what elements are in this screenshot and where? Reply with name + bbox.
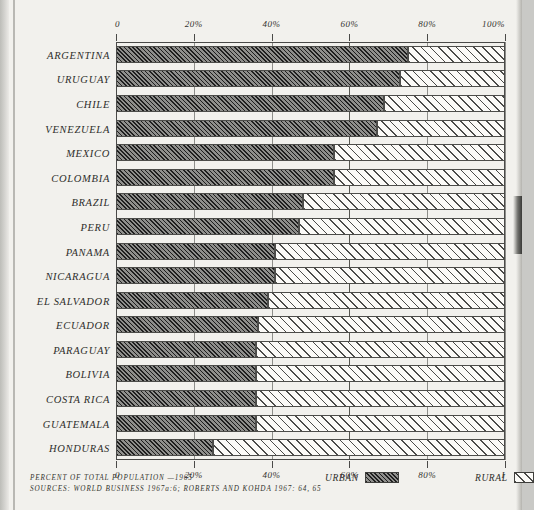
bar-row xyxy=(116,341,505,358)
tick-top-20 xyxy=(194,34,195,41)
bar-row xyxy=(116,193,505,210)
bar-row xyxy=(116,169,505,186)
bar-segment-urban xyxy=(116,267,275,284)
page-edge-shadow xyxy=(516,0,522,510)
tick-bottom-20 xyxy=(194,461,195,468)
bar-segment-urban xyxy=(116,144,334,161)
legend-swatch-urban xyxy=(365,472,399,483)
bar-segment-urban xyxy=(116,218,299,235)
bar-row xyxy=(116,70,505,87)
bar-row xyxy=(116,243,505,260)
bar-row xyxy=(116,218,505,235)
bar-segment-rural xyxy=(384,95,505,112)
category-label-chile: CHILE xyxy=(76,99,110,110)
plot-area xyxy=(116,42,505,460)
bar-segment-urban xyxy=(116,243,275,260)
bar-segment-rural xyxy=(256,415,505,432)
bar-row xyxy=(116,292,505,309)
bar-row xyxy=(116,267,505,284)
bar-segment-urban xyxy=(116,365,256,382)
bar-segment-urban xyxy=(116,415,256,432)
bar-segment-urban xyxy=(116,193,303,210)
bar-segment-rural xyxy=(299,218,505,235)
bar-row xyxy=(116,46,505,63)
tick-top-40 xyxy=(272,34,273,41)
bar-segment-urban xyxy=(116,341,256,358)
bar-segment-urban xyxy=(116,46,408,63)
category-label-panama: PANAMA xyxy=(66,247,110,258)
bar-segment-urban xyxy=(116,70,400,87)
bar-segment-rural xyxy=(400,70,505,87)
category-label-colombia: COLOMBIA xyxy=(51,173,110,184)
footer-sources: SOURCES: WORLD BUSINESS 1967a:6; ROBERTS… xyxy=(30,485,322,493)
bar-segment-rural xyxy=(213,439,505,456)
category-label-paraguay: PARAGUAY xyxy=(53,345,110,356)
category-label-costa-rica: COSTA RICA xyxy=(46,394,110,405)
bar-segment-rural xyxy=(334,144,505,161)
category-label-venezuela: VENEZUELA xyxy=(45,124,110,135)
tick-top-100 xyxy=(505,34,506,41)
category-label-brazil: BRAZIL xyxy=(71,197,110,208)
bar-segment-urban xyxy=(116,316,258,333)
axis-label-top-0: 0 xyxy=(115,19,120,29)
bar-segment-rural xyxy=(256,390,505,407)
bar-segment-rural xyxy=(303,193,505,210)
footer-caption: PERCENT OF TOTAL POPULATION —1965 xyxy=(30,474,193,482)
bar-row xyxy=(116,316,505,333)
bar-row xyxy=(116,95,505,112)
tick-top-0 xyxy=(116,34,117,41)
tick-bottom-60 xyxy=(349,461,350,468)
tick-bottom-100 xyxy=(505,461,506,468)
category-label-ecuador: ECUADOR xyxy=(56,320,110,331)
bar-segment-urban xyxy=(116,120,377,137)
bar-segment-urban xyxy=(116,95,384,112)
bar-row xyxy=(116,120,505,137)
bar-segment-rural xyxy=(275,267,505,284)
category-label-el-salvador: EL SALVADOR xyxy=(37,296,110,307)
bar-segment-rural xyxy=(256,341,505,358)
bar-segment-rural xyxy=(258,316,505,333)
bar-segment-urban xyxy=(116,169,334,186)
axis-label-top-80: 80% xyxy=(418,19,436,29)
axis-label-top-60: 60% xyxy=(340,19,358,29)
axis-label-top-100: 100% xyxy=(482,19,505,29)
category-label-guatemala: GUATEMALA xyxy=(43,419,110,430)
bar-row xyxy=(116,390,505,407)
chart-footer: PERCENT OF TOTAL POPULATION —1965 SOURCE… xyxy=(30,474,510,504)
page-edge-artifact xyxy=(513,196,522,254)
bar-segment-rural xyxy=(268,292,505,309)
category-label-uruguay: URUGUAY xyxy=(57,74,110,85)
category-label-honduras: HONDURAS xyxy=(49,443,110,454)
tick-bottom-40 xyxy=(272,461,273,468)
bar-segment-urban xyxy=(116,390,256,407)
category-label-peru: PERU xyxy=(80,222,110,233)
bar-segment-rural xyxy=(256,365,505,382)
category-axis-labels: ARGENTINAURUGUAYCHILEVENEZUELAMEXICOCOLO… xyxy=(0,42,110,460)
legend-item-urban: URBAN xyxy=(325,472,399,483)
category-label-argentina: ARGENTINA xyxy=(47,50,110,61)
axis-label-top-40: 40% xyxy=(263,19,281,29)
legend-swatch-rural xyxy=(514,472,534,483)
legend-label-rural: RURAL xyxy=(475,473,508,483)
axis-label-top-20: 20% xyxy=(185,19,203,29)
category-label-mexico: MEXICO xyxy=(66,148,110,159)
tick-bottom-0 xyxy=(116,461,117,468)
category-label-nicaragua: NICARAGUA xyxy=(45,271,110,282)
category-label-bolivia: BOLIVIA xyxy=(65,369,110,380)
bar-row xyxy=(116,144,505,161)
tick-top-60 xyxy=(349,34,350,41)
bar-segment-rural xyxy=(334,169,505,186)
bar-segment-rural xyxy=(377,120,505,137)
bar-segment-urban xyxy=(116,292,268,309)
bar-segment-urban xyxy=(116,439,213,456)
bar-row xyxy=(116,439,505,456)
tick-bottom-80 xyxy=(427,461,428,468)
legend-label-urban: URBAN xyxy=(325,473,359,483)
legend-item-rural: RURAL xyxy=(475,472,534,483)
tick-top-80 xyxy=(427,34,428,41)
gridline-100 xyxy=(505,42,506,460)
bar-segment-rural xyxy=(275,243,505,260)
bar-row xyxy=(116,365,505,382)
bar-segment-rural xyxy=(408,46,505,63)
